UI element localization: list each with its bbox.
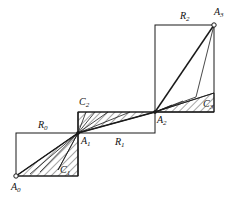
point-marker-a3	[212, 23, 216, 27]
label-rect-r0: R0	[38, 120, 48, 130]
figure-canvas: A0A1A2A3R0R1R2C1C2C3	[0, 0, 235, 202]
label-point-a3: A3	[214, 7, 224, 17]
label-rect-r2: R2	[180, 11, 190, 21]
rectangles-layer	[16, 25, 214, 176]
fan-lines-layer	[16, 25, 214, 176]
hatched-regions-layer	[16, 93, 214, 176]
label-point-a1: A1	[81, 136, 91, 146]
segment-a3-to-c3-corner	[196, 25, 214, 97]
geometry-svg	[0, 0, 235, 202]
point-marker-a0	[14, 174, 18, 178]
label-rect-r1: R1	[115, 137, 125, 147]
label-region-c3: C3	[203, 99, 213, 109]
label-region-c2: C2	[79, 97, 89, 107]
label-point-a0: A0	[11, 182, 21, 192]
label-point-a2: A2	[157, 115, 167, 125]
point-marker-a1	[76, 131, 79, 134]
label-region-c1: C1	[60, 165, 70, 175]
